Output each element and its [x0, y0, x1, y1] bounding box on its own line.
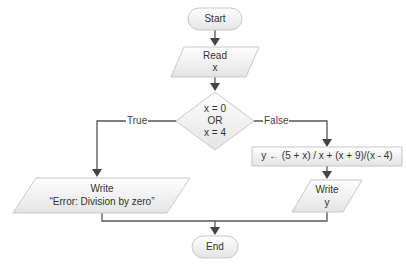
- decision-or: OR: [185, 115, 245, 127]
- connector-read-decision: [210, 77, 220, 91]
- connector-compute-write: [322, 165, 332, 179]
- end-label: End: [192, 241, 238, 253]
- false-edge-label: False: [263, 115, 289, 126]
- connector-true-branch: [92, 121, 176, 177]
- read-variable: x: [175, 62, 255, 74]
- start-label: Start: [188, 13, 242, 25]
- write-error-label: Write: [20, 183, 184, 195]
- decision-cond-1: x = 0: [185, 103, 245, 115]
- true-edge-label: True: [126, 115, 148, 126]
- connector-merge-end: [102, 212, 327, 235]
- read-label: Read: [175, 50, 255, 62]
- write-y-label: Write: [297, 184, 357, 196]
- connector-start-read: [210, 30, 220, 46]
- write-y-variable: y: [297, 197, 357, 209]
- decision-cond-2: x = 4: [185, 127, 245, 139]
- error-message: “Error: Division by zero”: [20, 196, 184, 208]
- compute-label: y ← (5 + x) / x + (x + 9)/(x - 4): [252, 150, 402, 162]
